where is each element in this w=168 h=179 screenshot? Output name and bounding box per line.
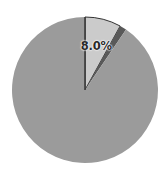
pie-chart: 8.0% bbox=[0, 0, 168, 179]
slice-label: 8.0% bbox=[81, 39, 112, 53]
pie-chart-canvas bbox=[0, 0, 168, 179]
